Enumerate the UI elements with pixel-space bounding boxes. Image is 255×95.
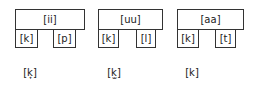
- vowel-box-ii: [ii]: [15, 9, 85, 30]
- consonant-box-l: [l]: [136, 29, 156, 48]
- allophone-advanced-k: [k̟]: [20, 68, 40, 78]
- consonant-box-k: [k]: [15, 29, 38, 48]
- vowel-box-uu: [uu]: [98, 9, 163, 30]
- consonant-box-k: [k]: [177, 29, 199, 48]
- vowel-box-aa: [aa]: [177, 9, 244, 30]
- allophone-labialized-k: [k̫]: [104, 68, 124, 78]
- consonant-box-k: [k]: [98, 29, 119, 48]
- consonant-box-p: [p]: [53, 29, 76, 48]
- consonant-box-t: [t]: [215, 29, 236, 48]
- allophone-plain-k: [k]: [182, 68, 202, 78]
